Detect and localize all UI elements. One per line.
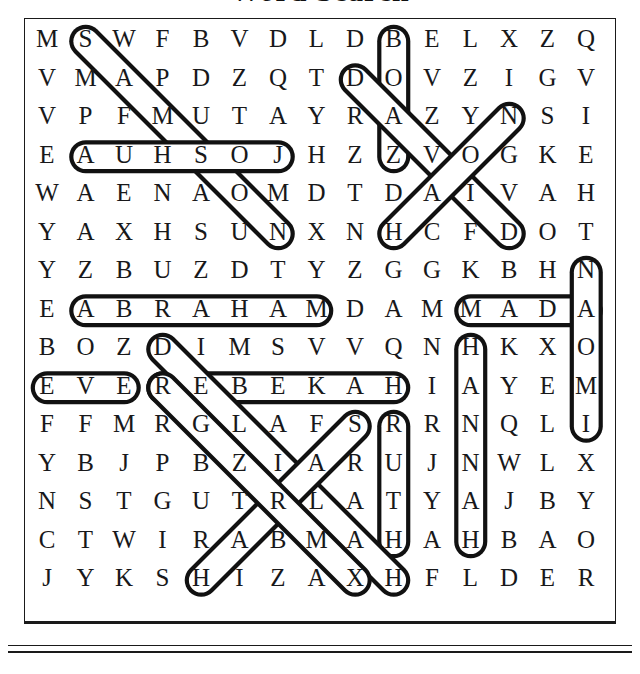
grid-cell: U <box>182 97 220 135</box>
grid-cell: A <box>413 521 451 559</box>
grid-cell: H <box>375 367 413 405</box>
grid-cell: B <box>105 290 143 328</box>
grid-cell: M <box>221 328 259 366</box>
grid-cell: U <box>375 444 413 482</box>
grid-cell: Q <box>259 59 297 97</box>
grid-cell: A <box>67 174 105 212</box>
grid-cell: I <box>182 328 220 366</box>
grid-cell: E <box>529 559 567 597</box>
grid-cell: D <box>336 290 374 328</box>
grid-cell: B <box>221 367 259 405</box>
grid-cell: R <box>144 405 182 443</box>
grid-cell: T <box>336 174 374 212</box>
grid-cell: H <box>182 559 220 597</box>
word-search-page: Word Search MSWFBVDLDBELXZQVMAPDZQTDOVZI… <box>0 0 640 674</box>
grid-cell: R <box>567 559 605 597</box>
grid-cell: E <box>413 20 451 58</box>
grid-cell: V <box>67 367 105 405</box>
grid-cell: L <box>298 482 336 520</box>
grid-cell: N <box>413 328 451 366</box>
grid-cell: M <box>28 20 66 58</box>
grid-cell: L <box>452 20 490 58</box>
grid-cell: H <box>144 136 182 174</box>
grid-cell: T <box>221 482 259 520</box>
grid-cell: H <box>375 213 413 251</box>
grid-cell: B <box>490 521 528 559</box>
grid-cell: V <box>413 136 451 174</box>
grid-cell: T <box>221 97 259 135</box>
grid-cell: Z <box>182 251 220 289</box>
grid-cell: F <box>298 405 336 443</box>
grid-cell: T <box>259 251 297 289</box>
grid-cell: O <box>221 136 259 174</box>
grid-cell: Z <box>375 136 413 174</box>
grid-cell: I <box>452 174 490 212</box>
grid-cell: S <box>529 97 567 135</box>
grid-cell: Z <box>105 328 143 366</box>
grid-cell: R <box>144 367 182 405</box>
grid-cell: D <box>375 174 413 212</box>
grid-cell: B <box>529 482 567 520</box>
grid-cell: M <box>298 521 336 559</box>
grid-cell: E <box>28 136 66 174</box>
grid-cell: D <box>336 20 374 58</box>
grid-cell: Z <box>221 59 259 97</box>
grid-cell: Q <box>567 20 605 58</box>
grid-cell: N <box>452 405 490 443</box>
grid-cell: T <box>375 482 413 520</box>
grid-cell: C <box>413 213 451 251</box>
grid-cell: D <box>144 328 182 366</box>
grid-cell: W <box>105 521 143 559</box>
grid-cell: A <box>452 367 490 405</box>
grid-cell: E <box>529 367 567 405</box>
grid-cell: A <box>490 290 528 328</box>
grid-cell: R <box>259 482 297 520</box>
grid-cell: X <box>529 328 567 366</box>
grid-cell: F <box>105 97 143 135</box>
grid-cell: G <box>375 251 413 289</box>
grid-cell: H <box>221 290 259 328</box>
grid-cell: E <box>105 367 143 405</box>
grid-cell: D <box>490 559 528 597</box>
grid-cell: Z <box>452 59 490 97</box>
grid-cell: Y <box>298 97 336 135</box>
grid-cell: Z <box>67 251 105 289</box>
grid-cell: J <box>490 482 528 520</box>
grid-cell: V <box>28 97 66 135</box>
grid-cell: E <box>28 290 66 328</box>
grid-cell: D <box>182 59 220 97</box>
grid-cell: T <box>567 213 605 251</box>
grid-cell: H <box>298 136 336 174</box>
grid-cell: A <box>67 136 105 174</box>
grid-cell: M <box>413 290 451 328</box>
grid-cell: M <box>144 97 182 135</box>
grid-cell: E <box>259 367 297 405</box>
grid-cell: W <box>28 174 66 212</box>
grid-cell: Z <box>259 559 297 597</box>
grid-cell: S <box>67 482 105 520</box>
grid-cell: S <box>182 213 220 251</box>
grid-cell: E <box>182 367 220 405</box>
grid-cell: Y <box>452 97 490 135</box>
grid-cell: F <box>67 405 105 443</box>
grid-cell: D <box>336 59 374 97</box>
grid-cell: E <box>28 367 66 405</box>
grid-cell: T <box>298 59 336 97</box>
grid-cell: K <box>105 559 143 597</box>
grid-cell: I <box>567 405 605 443</box>
grid-cell: U <box>182 482 220 520</box>
grid-cell: S <box>182 136 220 174</box>
grid-cell: A <box>375 290 413 328</box>
grid-cell: L <box>298 20 336 58</box>
grid-cell: M <box>452 290 490 328</box>
grid-cell: R <box>144 290 182 328</box>
grid-cell: P <box>67 97 105 135</box>
grid-cell: I <box>567 97 605 135</box>
grid-cell: E <box>567 136 605 174</box>
grid-cell: Q <box>375 328 413 366</box>
grid-cell: Y <box>67 559 105 597</box>
page-title-clipped: Word Search <box>0 0 640 4</box>
grid-cell: D <box>529 290 567 328</box>
grid-cell: T <box>105 482 143 520</box>
grid-cell: G <box>182 405 220 443</box>
